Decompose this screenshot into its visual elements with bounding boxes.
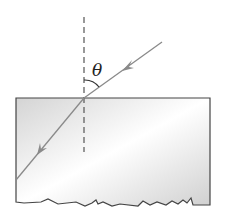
- refraction-diagram: θ: [0, 0, 226, 224]
- angle-arc: [84, 80, 99, 87]
- incident-arrow-icon: [122, 60, 134, 71]
- angle-label: θ: [92, 60, 102, 80]
- glass-block: [16, 98, 210, 206]
